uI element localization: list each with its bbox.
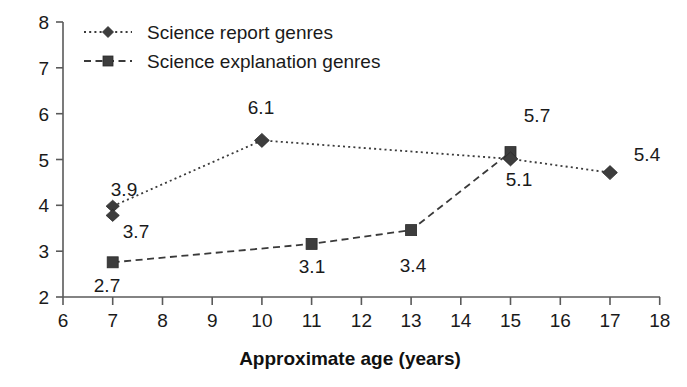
x-tick-label: 11 (302, 310, 322, 331)
data-point-marker-square (306, 238, 317, 249)
chart-legend: Science report genres Science explanatio… (84, 22, 380, 72)
legend-item-science-report-genres[interactable]: Science report genres (84, 22, 333, 43)
data-point-label: 3.7 (123, 221, 149, 242)
data-point-label: 6.1 (248, 97, 274, 118)
data-point-label: 5.4 (634, 144, 661, 165)
x-tick-label: 10 (251, 310, 272, 331)
y-tick-label: 2 (38, 287, 49, 308)
x-tick-label: 7 (107, 310, 118, 331)
data-point-marker-diamond (603, 166, 618, 180)
x-tick-label: 14 (450, 310, 472, 331)
x-tick-label: 12 (351, 310, 372, 331)
line-chart: 8 7 6 5 4 3 2 6 7 8 (0, 0, 687, 387)
data-point-label: 5.1 (506, 169, 532, 190)
x-axis-tick-labels: 6 7 8 9 10 11 12 13 14 15 16 17 18 (58, 310, 671, 331)
series-line (113, 140, 610, 206)
legend-label: Science explanation genres (147, 51, 380, 72)
x-tick-label: 8 (157, 310, 168, 331)
square-icon (103, 56, 113, 66)
x-tick-label: 18 (649, 310, 670, 331)
series-science-explanation-genres: 2.7 3.1 3.4 5.1 (94, 147, 532, 296)
x-tick-label: 16 (550, 310, 571, 331)
data-point-marker-diamond (106, 209, 119, 221)
y-tick-label: 3 (38, 241, 49, 262)
legend-item-science-explanation-genres[interactable]: Science explanation genres (84, 51, 380, 72)
series-science-report-genres: 3.9 3.7 6.1 5.7 5.4 (106, 97, 661, 242)
y-axis-ticks (56, 22, 63, 297)
data-point-marker-square (107, 257, 118, 268)
x-axis-ticks (63, 297, 660, 305)
legend-label: Science report genres (147, 22, 333, 43)
data-point-marker-diamond (255, 133, 270, 147)
x-axis-title: Approximate age (years) (239, 348, 461, 369)
x-tick-label: 13 (401, 310, 422, 331)
y-tick-label: 6 (38, 104, 49, 125)
data-point-label: 3.9 (111, 179, 137, 200)
data-point-label: 2.7 (94, 275, 120, 296)
data-point-label: 5.7 (524, 105, 550, 126)
data-point-label: 3.4 (400, 255, 427, 276)
y-tick-label: 8 (38, 12, 49, 33)
y-axis-tick-labels: 8 7 6 5 4 3 2 (38, 12, 49, 308)
data-point-marker-square (406, 225, 417, 236)
x-tick-label: 9 (207, 310, 218, 331)
y-tick-label: 5 (38, 150, 49, 171)
x-tick-label: 17 (599, 310, 620, 331)
y-tick-label: 4 (38, 195, 49, 216)
y-tick-label: 7 (38, 58, 49, 79)
x-tick-label: 6 (58, 310, 69, 331)
x-tick-label: 15 (500, 310, 521, 331)
diamond-icon (103, 27, 114, 38)
data-point-label: 3.1 (299, 256, 325, 277)
chart-container: 8 7 6 5 4 3 2 6 7 8 (0, 0, 687, 387)
